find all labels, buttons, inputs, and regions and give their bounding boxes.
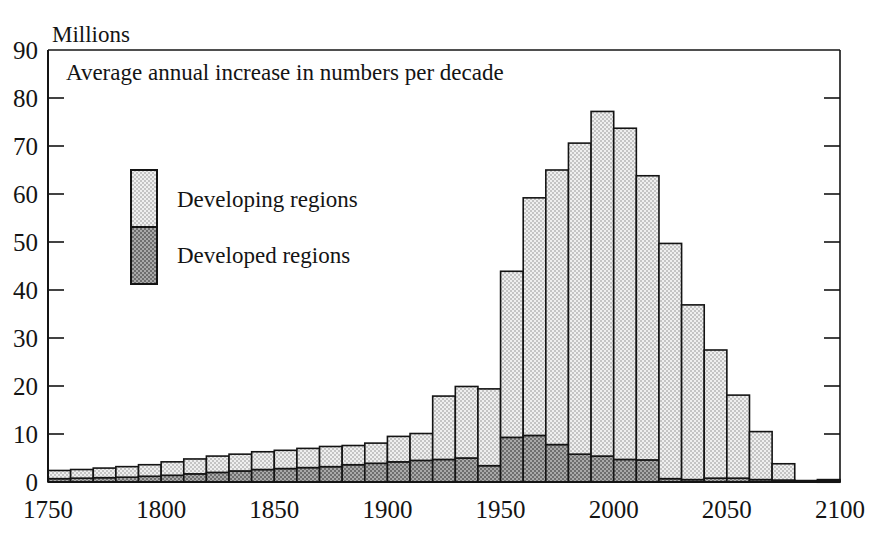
- bar-segment-developing: [387, 436, 410, 461]
- bar-segment-developing: [365, 443, 388, 463]
- bar-segment-developed: [501, 437, 524, 482]
- bar-segment-developed: [274, 469, 297, 482]
- bar-segment-developing: [229, 454, 252, 471]
- x-axis-tick-label: 1850: [249, 496, 299, 523]
- bar-segment-developing: [478, 389, 501, 466]
- chart-title: Average annual increase in numbers per d…: [66, 60, 504, 85]
- population-increase-bar-chart: 0102030405060708090 17501800185019001950…: [0, 0, 887, 542]
- x-axis-tick-label: 2000: [589, 496, 639, 523]
- chart-legend: Developing regions Developed regions: [131, 170, 358, 284]
- bar-segment-developing: [591, 111, 614, 456]
- bar-segment-developed: [410, 460, 433, 482]
- bar-segment-developing: [71, 470, 94, 479]
- bar-segment-developing: [772, 464, 795, 480]
- bar-segment-developing: [455, 386, 478, 458]
- y-axis-tick-label: 60: [13, 181, 38, 208]
- y-axis-tick-label: 50: [13, 229, 38, 256]
- bar-segment-developing: [410, 434, 433, 461]
- x-axis-tick-label: 1800: [136, 496, 186, 523]
- bar-segment-developing: [48, 470, 71, 478]
- bar-segment-developing: [523, 198, 546, 436]
- y-axis-tick-label: 20: [13, 373, 38, 400]
- bar-segment-developing: [614, 128, 637, 459]
- x-axis-tick-label: 2100: [815, 496, 865, 523]
- bar-segment-developed: [636, 460, 659, 482]
- bar-segment-developing: [568, 143, 591, 454]
- bar-segment-developed: [523, 435, 546, 482]
- x-axis-tick-label: 1950: [476, 496, 526, 523]
- y-axis-tick-label: 30: [13, 325, 38, 352]
- bar-segment-developing: [659, 243, 682, 478]
- bar-segment-developing: [682, 305, 705, 480]
- bars-layer: [48, 111, 840, 482]
- legend-label-developing: Developing regions: [177, 187, 358, 212]
- y-axis-labels: 0102030405060708090: [13, 37, 38, 496]
- bar-segment-developing: [252, 452, 275, 470]
- bar-segment-developing: [501, 271, 524, 437]
- bar-segment-developed: [478, 466, 501, 482]
- y-axis-unit-label: Millions: [52, 22, 130, 47]
- y-axis-tick-label: 40: [13, 277, 38, 304]
- bar-segment-developed: [206, 472, 229, 482]
- bar-segment-developing: [433, 396, 456, 459]
- bar-segment-developing: [704, 350, 727, 478]
- bar-segment-developing: [139, 465, 162, 477]
- bar-segment-developing: [116, 467, 139, 478]
- bar-segment-developed: [591, 456, 614, 482]
- bar-segment-developed: [365, 463, 388, 482]
- x-axis-tick-label: 1750: [23, 496, 73, 523]
- bar-segment-developing: [636, 176, 659, 460]
- bar-segment-developed: [614, 459, 637, 482]
- y-axis-tick-label: 80: [13, 85, 38, 112]
- bar-segment-developing: [161, 462, 184, 475]
- bar-segment-developed: [546, 445, 569, 482]
- y-axis-tick-label: 90: [13, 37, 38, 64]
- bar-segment-developing: [749, 432, 772, 480]
- bar-segment-developed: [320, 467, 343, 482]
- bar-segment-developing: [817, 480, 840, 481]
- bar-segment-developing: [206, 456, 229, 472]
- bar-segment-developed: [433, 459, 456, 482]
- bar-segment-developing: [342, 446, 365, 465]
- bar-segment-developing: [274, 450, 297, 468]
- y-axis-tick-label: 70: [13, 133, 38, 160]
- bar-segment-developed: [568, 454, 591, 482]
- bar-segment-developing: [184, 459, 207, 474]
- bar-segment-developing: [93, 468, 116, 478]
- y-axis-tick-label: 10: [13, 421, 38, 448]
- legend-swatch-developing: [131, 170, 157, 227]
- bar-segment-developed: [229, 471, 252, 482]
- bar-segment-developing: [727, 395, 750, 478]
- legend-swatch-developed: [131, 227, 157, 284]
- bar-segment-developed: [455, 458, 478, 482]
- chart-container: 0102030405060708090 17501800185019001950…: [0, 0, 887, 542]
- x-axis-tick-label: 1900: [362, 496, 412, 523]
- bar-segment-developed: [184, 474, 207, 482]
- x-axis-labels: 17501800185019001950200020502100: [23, 496, 865, 523]
- legend-label-developed: Developed regions: [177, 243, 350, 268]
- bar-segment-developing: [546, 170, 569, 445]
- bar-segment-developed: [342, 465, 365, 482]
- bar-segment-developing: [297, 448, 320, 467]
- bar-segment-developed: [297, 468, 320, 482]
- bar-segment-developed: [387, 462, 410, 482]
- bar-segment-developed: [161, 475, 184, 482]
- y-axis-tick-label: 0: [26, 469, 39, 496]
- bar-segment-developing: [320, 446, 343, 466]
- bar-segment-developed: [252, 470, 275, 482]
- x-axis-tick-label: 2050: [702, 496, 752, 523]
